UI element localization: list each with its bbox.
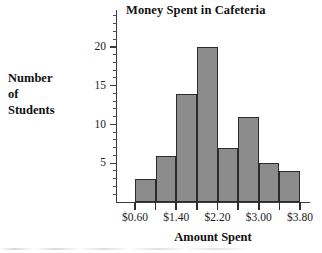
x-tick xyxy=(279,202,281,210)
bar xyxy=(197,47,218,202)
scan-artifact xyxy=(0,248,322,250)
y-tick-label: 20 xyxy=(82,40,106,52)
y-tick-minor xyxy=(113,108,118,109)
bar xyxy=(259,163,280,202)
y-tick-minor xyxy=(113,147,118,148)
y-tick-minor xyxy=(113,116,118,117)
bar xyxy=(176,94,197,203)
y-tick-minor xyxy=(113,93,118,94)
x-tick xyxy=(237,202,239,210)
bar xyxy=(218,148,239,202)
y-tick-label: 5 xyxy=(82,156,106,168)
x-tick xyxy=(175,202,177,210)
y-tick-minor xyxy=(113,31,118,32)
y-tick-major xyxy=(110,85,117,86)
y-tick-minor xyxy=(113,170,118,171)
y-tick-minor xyxy=(113,62,118,63)
x-tick xyxy=(155,202,157,210)
y-axis-title-line-3: Students xyxy=(8,102,98,118)
bar xyxy=(135,179,156,202)
y-tick-minor xyxy=(113,23,118,24)
y-tick-minor xyxy=(113,54,118,55)
chart-title: Money Spent in Cafeteria xyxy=(126,3,322,18)
x-tick xyxy=(299,202,301,210)
y-tick-minor xyxy=(113,70,118,71)
y-tick-minor xyxy=(113,77,118,78)
histogram-figure: Money Spent in Cafeteria Number of Stude… xyxy=(0,0,322,253)
y-tick-minor xyxy=(113,139,118,140)
y-tick-label: 15 xyxy=(82,79,106,91)
y-axis-title: Number of Students xyxy=(8,70,98,118)
y-tick-minor xyxy=(113,15,118,16)
x-tick xyxy=(134,202,136,210)
x-tick xyxy=(217,202,219,210)
x-tick-label: $3.80 xyxy=(276,211,322,223)
x-tick xyxy=(196,202,198,210)
y-tick-major xyxy=(110,46,117,47)
y-tick-minor xyxy=(113,39,118,40)
y-tick-label: 10 xyxy=(82,118,106,130)
x-tick xyxy=(258,202,260,210)
y-tick-minor xyxy=(113,178,118,179)
y-tick-minor xyxy=(113,132,118,133)
bar xyxy=(279,171,300,202)
y-tick-minor xyxy=(113,101,118,102)
y-tick-minor xyxy=(113,155,118,156)
y-tick-major xyxy=(110,124,117,125)
y-tick-minor xyxy=(113,186,118,187)
y-tick-major xyxy=(110,163,117,164)
bar xyxy=(238,117,259,202)
y-tick-minor xyxy=(113,194,118,195)
bar xyxy=(156,156,177,203)
x-axis-title: Amount Spent xyxy=(116,230,310,245)
